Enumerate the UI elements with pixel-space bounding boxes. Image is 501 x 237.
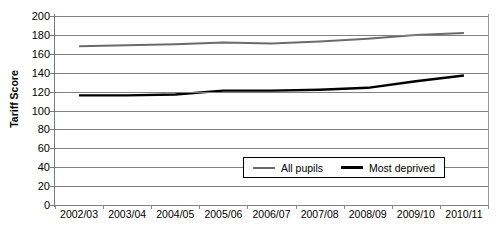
gridline: [55, 73, 488, 74]
legend-item: Most deprived: [341, 162, 435, 174]
y-axis-tick-label: 100: [16, 105, 50, 116]
y-axis-tick-label: 60: [16, 143, 50, 154]
legend-label: Most deprived: [369, 162, 435, 174]
y-axis-tick-label: 180: [16, 29, 50, 40]
gridline: [55, 129, 488, 130]
y-axis-tick-label: 20: [16, 181, 50, 192]
y-axis-tick-label: 40: [16, 162, 50, 173]
gridline: [55, 16, 488, 17]
y-axis-tick-mark: [50, 167, 55, 168]
x-axis-tick-label: 2003/04: [108, 208, 146, 220]
x-axis-tick-label: 2006/07: [253, 208, 291, 220]
y-axis-tick-labels: 200180160140120100806040200: [14, 0, 50, 237]
y-axis-tick-mark: [50, 73, 55, 74]
x-axis-tick-label: 2007/08: [301, 208, 339, 220]
y-axis-tick-mark: [50, 54, 55, 55]
legend-item: All pupils: [253, 162, 323, 174]
y-axis-tick-mark: [50, 186, 55, 187]
plot-right-border: [488, 14, 489, 205]
x-axis-tick-mark: [296, 205, 297, 209]
gridline: [55, 92, 488, 93]
y-axis-tick-mark: [50, 148, 55, 149]
gridline: [55, 111, 488, 112]
x-axis-tick-label: 2005/06: [204, 208, 242, 220]
x-axis-tick-label: 2009/10: [397, 208, 435, 220]
legend-swatch-icon: [341, 166, 363, 169]
y-axis-tick-mark: [50, 35, 55, 36]
y-axis-tick-label: 80: [16, 124, 50, 135]
gridline: [55, 205, 488, 206]
y-axis-tick-label: 160: [16, 48, 50, 59]
gridline: [55, 186, 488, 187]
x-axis-tick-mark: [199, 205, 200, 209]
x-axis-tick-mark: [440, 205, 441, 209]
y-axis-tick-mark: [50, 111, 55, 112]
line-chart: Tariff Score 200180160140120100806040200…: [0, 0, 501, 237]
x-axis-tick-mark: [247, 205, 248, 209]
y-axis-tick-mark: [50, 129, 55, 130]
y-axis-tick-mark: [50, 92, 55, 93]
gridline: [55, 35, 488, 36]
gridline: [55, 54, 488, 55]
gridline: [55, 148, 488, 149]
y-axis-tick-label: 200: [16, 11, 50, 22]
x-axis-tick-mark: [151, 205, 152, 209]
x-axis-tick-mark: [103, 205, 104, 209]
legend-swatch-icon: [253, 167, 275, 169]
x-axis-tick-label: 2002/03: [60, 208, 98, 220]
y-axis-tick-mark: [50, 16, 55, 17]
y-axis-tick-label: 140: [16, 67, 50, 78]
x-axis-tick-mark: [55, 205, 56, 209]
y-axis-tick-label: 0: [16, 200, 50, 211]
x-axis-tick-label: 2008/09: [349, 208, 387, 220]
y-axis-tick-label: 120: [16, 86, 50, 97]
x-axis-tick-mark: [392, 205, 393, 209]
chart-legend: All pupilsMost deprived: [243, 157, 445, 178]
x-axis-tick-label: 2004/05: [156, 208, 194, 220]
x-axis-tick-mark: [488, 205, 489, 209]
legend-label: All pupils: [281, 162, 323, 174]
x-axis-tick-mark: [344, 205, 345, 209]
x-axis-tick-label: 2010/11: [445, 208, 482, 220]
